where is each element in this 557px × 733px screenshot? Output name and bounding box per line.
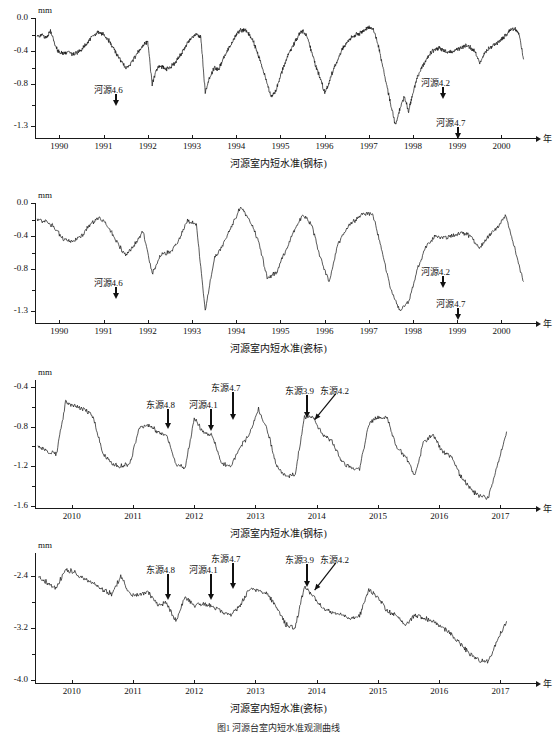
annotation-arrow-icon	[0, 0, 557, 733]
chart-caption: 河源室内短水准(瓷标)	[0, 700, 557, 715]
figure-container: mm年-1.3-0.8-0.40.01990199119921993199419…	[0, 0, 557, 733]
figure-caption: 图1 河源台室内短水准观测曲线	[0, 721, 557, 733]
